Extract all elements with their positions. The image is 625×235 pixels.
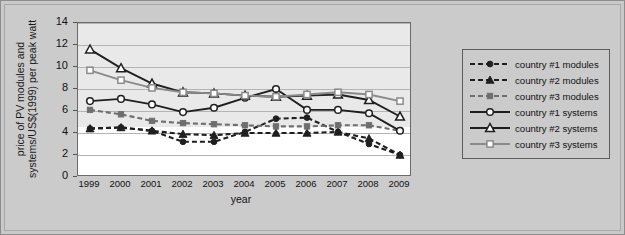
y-axis-title-line-2: systems/US$(1999) per peak watt <box>27 10 39 188</box>
y-tick-label-14: 14 <box>38 15 68 27</box>
y-tick-label-12: 12 <box>38 37 68 49</box>
y-tick-label-4: 4 <box>38 125 68 137</box>
y-tick-mark-0 <box>73 176 77 177</box>
legend-label: country #3 systems <box>511 139 598 150</box>
legend-label: country #2 systems <box>511 123 598 134</box>
chart-legend: country #1 modulescountry #2 modulescoun… <box>462 49 610 159</box>
legend-key-circle-open-icon <box>469 105 511 119</box>
legend-item-1[interactable]: country #1 modules <box>469 56 604 72</box>
y-tick-label-2: 2 <box>38 147 68 159</box>
legend-key-square-open-icon <box>469 137 511 151</box>
x-axis-title: year <box>201 193 281 205</box>
x-tick-label-2009: 2009 <box>377 178 421 189</box>
series-country-2-modules <box>86 124 404 159</box>
legend-item-2[interactable]: country #2 modules <box>469 72 604 88</box>
legend-label: country #1 modules <box>511 59 599 70</box>
y-axis-title-wrapper: price of PV modules and systems/US$(1999… <box>3 9 47 189</box>
legend-key-triangle-open-icon <box>469 121 511 135</box>
legend-item-4[interactable]: country #1 systems <box>469 104 604 120</box>
series-country-3-systems <box>87 67 403 104</box>
y-tick-label-10: 10 <box>38 59 68 71</box>
legend-label: country #2 modules <box>511 75 599 86</box>
chart-figure: price of PV modules and systems/US$(1999… <box>0 0 625 235</box>
y-axis-title: price of PV modules and systems/US$(1999… <box>15 10 35 188</box>
legend-rows: country #1 modulescountry #2 modulescoun… <box>469 56 604 152</box>
legend-label: country #1 systems <box>511 107 598 118</box>
legend-item-5[interactable]: country #2 systems <box>469 120 604 136</box>
legend-label: country #3 modules <box>511 91 599 102</box>
legend-key-triangle-filled-icon <box>469 73 511 87</box>
legend-item-3[interactable]: country #3 modules <box>469 88 604 104</box>
y-tick-label-6: 6 <box>38 103 68 115</box>
y-tick-label-8: 8 <box>38 81 68 93</box>
y-tick-label-0: 0 <box>38 169 68 181</box>
legend-item-6[interactable]: country #3 systems <box>469 136 604 152</box>
y-axis-title-line-1: price of PV modules and <box>15 10 27 188</box>
plot-area <box>77 22 411 176</box>
legend-key-circle-filled-icon <box>469 57 511 71</box>
series-canvas <box>78 23 411 176</box>
legend-key-square-filled-icon <box>469 89 511 103</box>
